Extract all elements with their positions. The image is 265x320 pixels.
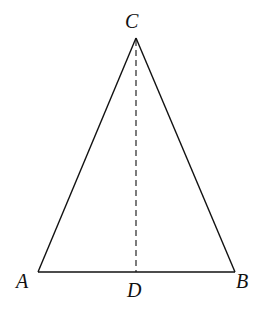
label-b: B: [236, 270, 248, 292]
triangle-diagram: A B C D: [0, 0, 265, 320]
label-c: C: [125, 10, 139, 32]
label-a: A: [14, 270, 29, 292]
label-d: D: [126, 279, 142, 301]
side-ac: [38, 38, 136, 272]
side-bc: [136, 38, 235, 272]
